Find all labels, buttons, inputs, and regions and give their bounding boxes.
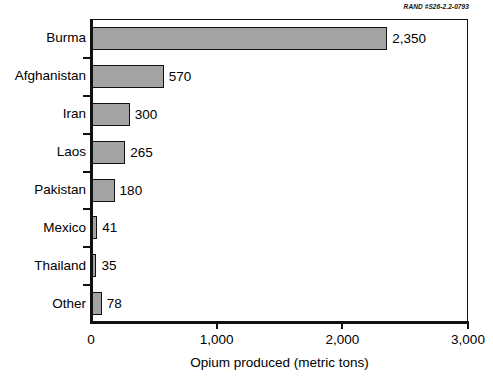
bar-iran <box>92 103 130 126</box>
bar-value-label: 570 <box>169 67 192 86</box>
y-axis-tick <box>83 208 91 210</box>
bar-value-label: 300 <box>135 105 158 124</box>
bar-laos <box>92 141 125 164</box>
bar-row: 78 <box>92 285 469 323</box>
category-label-iran: Iran <box>2 104 86 123</box>
category-label-laos: Laos <box>2 142 86 161</box>
category-label-burma: Burma <box>2 28 86 47</box>
x-axis-line <box>90 321 469 324</box>
x-axis-title: Opium produced (metric tons) <box>91 355 468 370</box>
y-axis-tick <box>83 57 91 59</box>
category-label-afghanistan: Afghanistan <box>2 66 86 85</box>
opium-production-bar-chart: RAND #S26-2.2-0793 2,3505703002651804135… <box>0 0 493 381</box>
x-axis-tick <box>216 322 218 329</box>
y-axis-tick <box>83 284 91 286</box>
y-axis-tick <box>83 95 91 97</box>
bar-value-label: 78 <box>107 294 122 313</box>
y-axis-category-labels: BurmaAfghanistanIranLaosPakistanMexicoTh… <box>0 19 86 322</box>
x-axis-tick-label: 0 <box>87 331 95 349</box>
x-axis-tick <box>467 322 469 329</box>
plot-area: 2,350570300265180413578 <box>91 19 468 322</box>
x-axis-tick-label: 2,000 <box>325 331 359 349</box>
bar-row: 265 <box>92 134 469 172</box>
source-credit-label: RAND #S26-2.2-0793 <box>404 3 469 10</box>
bar-value-label: 180 <box>120 181 143 200</box>
y-axis-tick <box>83 246 91 248</box>
bar-row: 2,350 <box>92 20 469 58</box>
bar-burma <box>92 27 387 50</box>
y-axis-tick <box>83 171 91 173</box>
bar-row: 35 <box>92 247 469 285</box>
bar-row: 570 <box>92 58 469 96</box>
bar-afghanistan <box>92 65 164 88</box>
bar-row: 300 <box>92 96 469 134</box>
x-axis-tick-label: 3,000 <box>451 331 485 349</box>
bar-value-label: 265 <box>130 143 153 162</box>
category-label-mexico: Mexico <box>2 218 86 237</box>
bar-value-label: 41 <box>102 218 117 237</box>
bar-value-label: 2,350 <box>392 29 426 48</box>
category-label-thailand: Thailand <box>2 256 86 275</box>
y-axis-tick <box>83 133 91 135</box>
category-label-pakistan: Pakistan <box>2 180 86 199</box>
bar-row: 180 <box>92 172 469 210</box>
bar-row: 41 <box>92 209 469 247</box>
bar-value-label: 35 <box>101 256 116 275</box>
bar-pakistan <box>92 179 115 202</box>
bar-other <box>92 292 102 315</box>
category-label-other: Other <box>2 294 86 313</box>
x-axis-tick-label: 1,000 <box>200 331 234 349</box>
x-axis-tick <box>341 322 343 329</box>
